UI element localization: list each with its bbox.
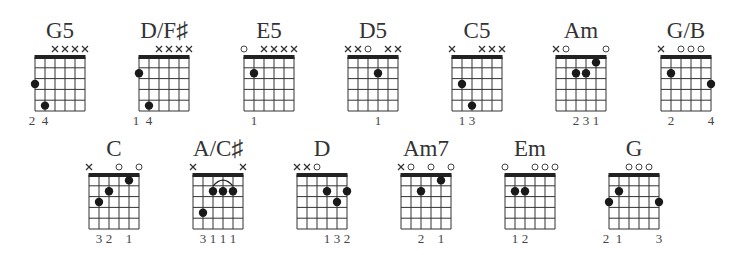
finger-dot bbox=[458, 80, 466, 88]
chord-diagram: A/C♯3111 bbox=[193, 136, 243, 254]
nut-bar bbox=[297, 173, 348, 177]
finger-dot bbox=[417, 187, 425, 195]
finger-dot bbox=[511, 187, 519, 195]
nut-bar bbox=[244, 55, 295, 59]
muted-string-icon bbox=[304, 164, 310, 170]
muted-string-icon bbox=[345, 46, 351, 52]
finger-dot bbox=[125, 176, 133, 184]
nut-bar bbox=[661, 55, 712, 59]
finger-dot bbox=[41, 101, 49, 109]
open-string-icon bbox=[552, 164, 558, 170]
finger-number: 4 bbox=[708, 113, 715, 128]
muted-string-icon bbox=[291, 46, 297, 52]
nut-bar bbox=[89, 173, 140, 177]
nut-bar bbox=[609, 173, 660, 177]
chord-diagram: C513 bbox=[452, 18, 502, 136]
fretboard-grid: 12 bbox=[505, 136, 565, 246]
muted-string-icon bbox=[385, 46, 391, 52]
open-string-icon bbox=[563, 46, 569, 52]
chord-diagram: E51 bbox=[244, 18, 294, 136]
fretboard-grid: 24 bbox=[35, 18, 95, 128]
finger-dot bbox=[95, 198, 103, 206]
finger-number: 3 bbox=[334, 231, 341, 246]
nut-bar bbox=[139, 55, 190, 59]
nut-bar bbox=[35, 55, 86, 59]
muted-string-icon bbox=[156, 46, 162, 52]
muted-string-icon bbox=[449, 46, 455, 52]
chord-diagram: D132 bbox=[297, 136, 347, 254]
finger-dot bbox=[615, 187, 623, 195]
open-string-icon bbox=[678, 46, 684, 52]
finger-number: 2 bbox=[603, 231, 610, 246]
muted-string-icon bbox=[294, 164, 300, 170]
finger-dot bbox=[667, 69, 675, 77]
fretboard-grid: 13 bbox=[452, 18, 512, 128]
muted-string-icon bbox=[499, 46, 505, 52]
finger-dot bbox=[199, 209, 207, 217]
open-string-icon bbox=[542, 164, 548, 170]
finger-number: 3 bbox=[656, 231, 663, 246]
finger-number: 3 bbox=[469, 113, 476, 128]
fretboard-grid: 321 bbox=[89, 136, 149, 246]
muted-string-icon bbox=[52, 46, 58, 52]
finger-dot bbox=[105, 187, 113, 195]
fretboard-grid: 1 bbox=[348, 18, 408, 128]
muted-string-icon bbox=[176, 46, 182, 52]
muted-string-icon bbox=[489, 46, 495, 52]
open-string-icon bbox=[688, 46, 694, 52]
muted-string-icon bbox=[62, 46, 68, 52]
finger-dot bbox=[592, 58, 600, 66]
finger-dot bbox=[572, 69, 580, 77]
finger-dot bbox=[655, 198, 663, 206]
muted-string-icon bbox=[166, 46, 172, 52]
finger-dot bbox=[468, 101, 476, 109]
finger-dot bbox=[135, 69, 143, 77]
open-string-icon bbox=[365, 46, 371, 52]
finger-dot bbox=[31, 80, 39, 88]
open-string-icon bbox=[241, 46, 247, 52]
finger-number: 4 bbox=[146, 113, 153, 128]
finger-number: 3 bbox=[583, 113, 590, 128]
open-string-icon bbox=[502, 164, 508, 170]
chord-diagram: Em12 bbox=[505, 136, 555, 254]
muted-string-icon bbox=[355, 46, 361, 52]
open-string-icon bbox=[698, 46, 704, 52]
nut-bar bbox=[401, 173, 452, 177]
finger-number: 1 bbox=[512, 231, 519, 246]
chord-diagram: G/B24 bbox=[661, 18, 711, 136]
finger-number: 2 bbox=[522, 231, 529, 246]
open-string-icon bbox=[532, 164, 538, 170]
fretboard-grid: 231 bbox=[556, 18, 616, 128]
finger-number: 1 bbox=[133, 113, 140, 128]
open-string-icon bbox=[116, 164, 122, 170]
fretboard-grid: 14 bbox=[139, 18, 199, 128]
fretboard-grid: 132 bbox=[297, 136, 357, 246]
nut-bar bbox=[556, 55, 607, 59]
finger-number: 2 bbox=[106, 231, 113, 246]
finger-number: 4 bbox=[42, 113, 49, 128]
muted-string-icon bbox=[190, 164, 196, 170]
open-string-icon bbox=[636, 164, 642, 170]
chord-diagram: D51 bbox=[348, 18, 398, 136]
finger-number: 3 bbox=[200, 231, 207, 246]
chord-diagram: G213 bbox=[609, 136, 659, 254]
finger-dot bbox=[343, 187, 351, 195]
finger-number: 1 bbox=[459, 113, 466, 128]
open-string-icon bbox=[428, 164, 434, 170]
finger-dot bbox=[521, 187, 529, 195]
finger-dot bbox=[250, 69, 258, 77]
nut-bar bbox=[452, 55, 503, 59]
open-string-icon bbox=[603, 46, 609, 52]
nut-bar bbox=[193, 173, 244, 177]
muted-string-icon bbox=[658, 46, 664, 52]
open-string-icon bbox=[314, 164, 320, 170]
finger-dot bbox=[219, 187, 227, 195]
chord-diagram: Am721 bbox=[401, 136, 451, 254]
muted-string-icon bbox=[240, 164, 246, 170]
fretboard-grid: 3111 bbox=[193, 136, 253, 246]
finger-number: 2 bbox=[668, 113, 675, 128]
finger-number: 1 bbox=[375, 113, 382, 128]
muted-string-icon bbox=[82, 46, 88, 52]
finger-dot bbox=[209, 187, 217, 195]
muted-string-icon bbox=[398, 164, 404, 170]
